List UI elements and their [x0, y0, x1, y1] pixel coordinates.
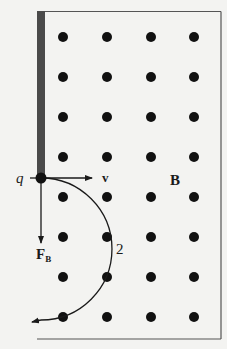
field-dot	[102, 32, 112, 42]
field-dot	[102, 112, 112, 122]
path-label: 2	[116, 241, 124, 257]
path-arrow-icon	[32, 320, 41, 322]
field-dot	[146, 32, 156, 42]
field-dot	[146, 232, 156, 242]
field-dot	[58, 112, 68, 122]
field-dot	[189, 312, 199, 322]
field-region-border	[37, 12, 221, 340]
field-label: B	[170, 172, 180, 188]
field-dot	[58, 72, 68, 82]
field-dot	[146, 312, 156, 322]
field-dot	[189, 72, 199, 82]
field-dot	[189, 192, 199, 202]
force-label: FB	[36, 246, 51, 264]
charge-particle	[36, 173, 47, 184]
field-dot	[58, 192, 68, 202]
field-dot	[146, 72, 156, 82]
field-dot	[58, 272, 68, 282]
field-dot	[58, 152, 68, 162]
force-label-subscript: B	[45, 254, 51, 264]
field-dot	[146, 152, 156, 162]
field-dot	[189, 32, 199, 42]
field-dot	[146, 192, 156, 202]
field-dot	[102, 192, 112, 202]
barrier-plate	[37, 11, 45, 174]
particle-path-arc	[41, 178, 112, 320]
field-dot	[189, 232, 199, 242]
field-dot	[146, 112, 156, 122]
field-dot	[146, 272, 156, 282]
field-dot	[189, 152, 199, 162]
field-dot	[189, 112, 199, 122]
velocity-label: v	[102, 170, 109, 185]
charge-label: q	[16, 170, 24, 186]
magnetic-field-diagram: q v B FB 2	[0, 0, 227, 349]
field-dot	[58, 232, 68, 242]
force-label-main: F	[36, 246, 45, 262]
field-dot	[102, 72, 112, 82]
field-dot	[189, 272, 199, 282]
field-dot	[58, 32, 68, 42]
field-dot	[102, 152, 112, 162]
field-dot	[102, 312, 112, 322]
